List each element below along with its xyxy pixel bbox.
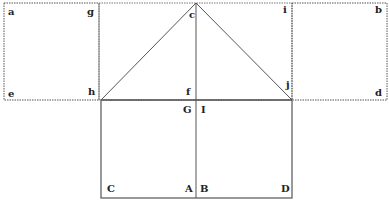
label-b: b [375, 5, 382, 15]
right-square [292, 3, 387, 100]
label-A: A [185, 184, 193, 194]
label-j: j [286, 80, 290, 90]
label-a: a [8, 7, 14, 17]
edge-h-c [101, 3, 196, 100]
label-D: D [281, 184, 290, 194]
label-c: c [189, 10, 195, 20]
label-d: d [375, 88, 382, 98]
label-g: g [87, 7, 94, 17]
label-f: f [186, 87, 190, 97]
label-C: C [107, 184, 115, 194]
edge-c-j [196, 3, 292, 100]
label-i: i [283, 5, 287, 15]
label-I: I [201, 105, 206, 115]
left-square [4, 3, 99, 100]
label-B: B [200, 184, 208, 194]
label-h: h [88, 87, 95, 97]
label-e: e [8, 89, 14, 99]
diagram-canvas [0, 0, 389, 210]
label-G: G [183, 105, 192, 115]
